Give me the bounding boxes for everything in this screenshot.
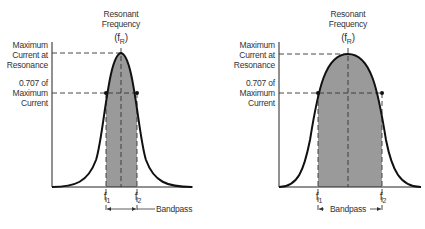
left-max-current-label: Maximum Current at Resonance: [2, 40, 48, 70]
left-707-label: 0.707 of Maximum Current: [2, 78, 48, 108]
left-resonant-frequency-label: Resonant Frequency: [90, 9, 152, 29]
right-f2-label: f2: [377, 192, 389, 206]
right-f1-label: f1: [313, 192, 325, 206]
right-fr-label: (fR): [335, 33, 361, 47]
left-f2-label: f2: [132, 192, 144, 206]
right-resonant-frequency-label: Resonant Frequency: [317, 9, 379, 29]
left-chart: [52, 42, 193, 212]
resonance-diagrams: [0, 0, 425, 229]
right-max-current-label: Maximum Current at Resonance: [227, 40, 275, 70]
left-bandpass-label: Bandpass: [156, 204, 196, 214]
left-f1-label: f1: [101, 192, 113, 206]
right-bandpass-label: Bandpass: [326, 204, 370, 214]
right-707-label: 0.707 of Maximum Current: [227, 78, 275, 108]
right-chart: [279, 42, 421, 212]
left-fr-label: (fR): [108, 33, 134, 47]
